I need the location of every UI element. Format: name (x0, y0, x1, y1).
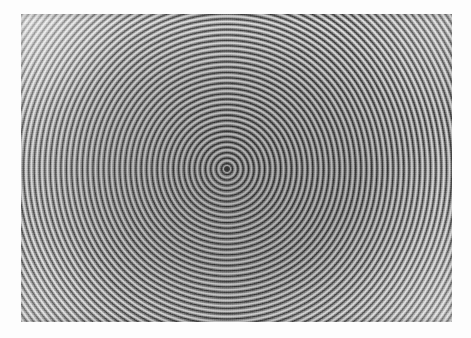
film-grain-texture (21, 14, 452, 322)
bullseye-center-dot (224, 166, 230, 172)
concentric-rings-photograph (21, 14, 452, 322)
screenshot-canvas: Black and white photograph of a disc inc… (0, 0, 471, 338)
